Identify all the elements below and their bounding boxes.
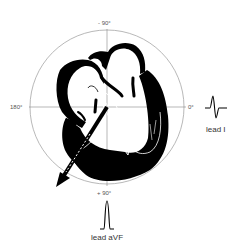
angle-label-180: 180° — [10, 104, 22, 110]
heart-axis-diagram — [0, 0, 240, 251]
lead-i-label: lead I — [206, 126, 226, 134]
angle-label-plus-90: + 90° — [97, 190, 111, 196]
lead-avf-label: lead aVF — [91, 234, 123, 242]
lead-i-waveform — [205, 96, 227, 118]
angle-label-minus-90: - 90° — [98, 20, 111, 26]
angle-label-0: 0° — [188, 104, 194, 110]
lead-avf-waveform — [100, 201, 114, 229]
